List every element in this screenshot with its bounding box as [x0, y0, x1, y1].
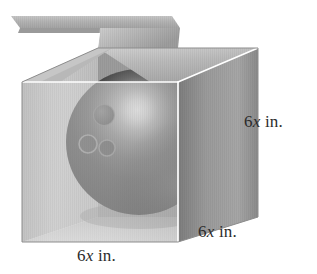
box-front-face [22, 82, 178, 242]
dimension-right-number: 6 [244, 112, 253, 131]
dimension-label-right: 6x in. [244, 112, 283, 132]
dimension-bottom-right-number: 6 [198, 222, 207, 241]
dimension-bottom-right-unit: in. [219, 222, 237, 241]
dimension-right-unit: in. [265, 112, 283, 131]
dimension-bottom-number: 6 [77, 246, 86, 265]
bowling-ball-in-box-figure [0, 0, 317, 274]
dimension-right-variable: x [253, 112, 261, 131]
dimension-label-bottom-right: 6x in. [198, 222, 237, 242]
dimension-bottom-variable: x [86, 246, 94, 265]
dimension-bottom-unit: in. [98, 246, 116, 265]
dimension-bottom-right-variable: x [207, 222, 215, 241]
dimension-label-bottom: 6x in. [77, 246, 116, 266]
